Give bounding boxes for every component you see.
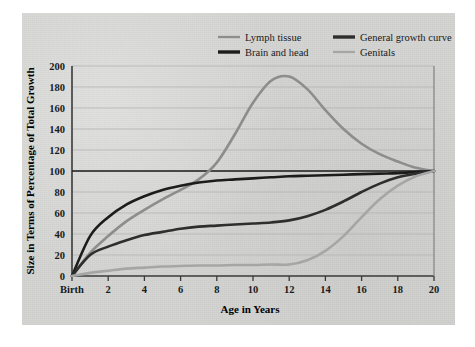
y-tick-label-140: 140 [49,124,65,135]
legend-label-general-growth-curve: General growth curve [360,32,452,43]
chart-legend: Lymph tissueGeneral growth curveBrain an… [218,32,452,58]
data-curves [72,76,434,276]
x-tick-label-6: 6 [178,284,183,295]
legend-label-brain-and-head: Brain and head [245,47,309,58]
x-tick-label-12: 12 [284,284,295,295]
y-tick-label-200: 200 [49,61,65,72]
growth-curves-chart: 020406080100120140160180200 Birth2468101… [0,0,475,347]
y-tick-label-120: 120 [49,145,65,156]
legend-label-genitals: Genitals [360,47,395,58]
x-tick-label-16: 16 [356,284,367,295]
y-axis-tick-labels: 020406080100120140160180200 [49,61,65,282]
x-tick-label-2: 2 [106,284,111,295]
curve-general-growth-curve [72,171,434,276]
y-tick-label-0: 0 [60,271,65,282]
y-axis-title: Size in Terms of Percentage of Total Gro… [24,67,36,274]
gridlines [72,66,434,255]
y-tick-label-100: 100 [49,166,65,177]
x-tick-label-4: 4 [142,284,148,295]
x-axis-tick-labels: Birth2468101214161820 [60,284,439,295]
x-tick-label-10: 10 [248,284,259,295]
y-tick-label-60: 60 [55,208,66,219]
x-tick-label-18: 18 [393,284,404,295]
x-axis-title: Age in Years [221,303,281,315]
x-tick-label-14: 14 [320,284,331,295]
x-tick-label-birth: Birth [60,284,84,295]
curve-lymph-tissue [72,76,434,276]
figure-container: 020406080100120140160180200 Birth2468101… [0,0,475,347]
y-tick-label-160: 160 [49,103,65,114]
y-tick-label-40: 40 [55,229,66,240]
x-tick-label-8: 8 [214,284,219,295]
legend-label-lymph-tissue: Lymph tissue [245,32,302,43]
y-tick-label-180: 180 [49,82,65,93]
y-tick-label-80: 80 [55,187,66,198]
y-tick-label-20: 20 [55,250,66,261]
x-tick-label-20: 20 [429,284,440,295]
